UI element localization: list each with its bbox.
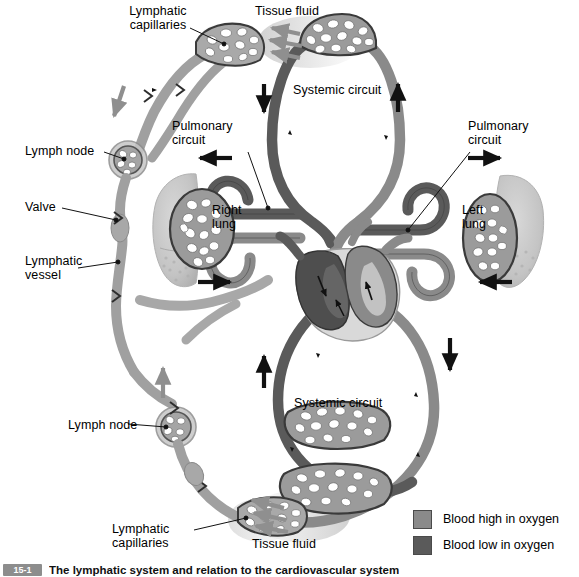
legend-item-deoxygenated: Blood low in oxygen	[413, 532, 579, 558]
label-pulmonary-circuit-left: Pulmonary circuit	[172, 119, 233, 147]
legend-label-oxygenated: Blood high in oxygen	[443, 512, 559, 526]
leader-lymphatic-vessel	[78, 262, 118, 268]
label-tissue-fluid-bottom: Tissue fluid	[252, 537, 316, 551]
anatomy-diagram	[0, 0, 579, 577]
label-systemic-circuit-top: Systemic circuit	[293, 83, 381, 97]
figure-canvas: Lymphatic capillaries Tissue fluid Syste…	[0, 0, 579, 577]
legend-swatch-deoxygenated	[413, 536, 432, 555]
figure-caption-text: The lymphatic system and relation to the…	[49, 564, 399, 576]
leader-valve	[62, 208, 116, 220]
legend-label-deoxygenated: Blood low in oxygen	[443, 538, 554, 552]
figure-number: 15-1	[3, 564, 42, 576]
label-lymphatic-vessel: Lymphatic vessel	[25, 254, 82, 282]
label-lymphatic-capillaries-bottom: Lymphatic capillaries	[112, 522, 169, 550]
label-lymph-node-upper: Lymph node	[25, 144, 94, 158]
figure-caption: 15-1 The lymphatic system and relation t…	[0, 564, 579, 577]
label-lymphatic-capillaries-top: Lymphatic capillaries	[104, 4, 212, 32]
label-tissue-fluid-top: Tissue fluid	[255, 4, 319, 18]
label-right-lung: Right lung	[212, 203, 242, 231]
label-valve: Valve	[25, 200, 56, 214]
label-systemic-circuit-bottom: Systemic circuit	[294, 396, 382, 410]
label-left-lung: Left lung	[462, 203, 486, 231]
legend-swatch-oxygenated	[413, 510, 432, 529]
label-lymph-node-lower: Lymph node	[68, 418, 137, 432]
lymph-flow-arrow-upper-left	[114, 86, 124, 116]
legend: Blood high in oxygen Blood low in oxygen	[413, 506, 579, 558]
legend-item-oxygenated: Blood high in oxygen	[413, 506, 579, 532]
label-pulmonary-circuit-right: Pulmonary circuit	[468, 119, 529, 147]
systemic-circuit-upper	[272, 14, 400, 256]
